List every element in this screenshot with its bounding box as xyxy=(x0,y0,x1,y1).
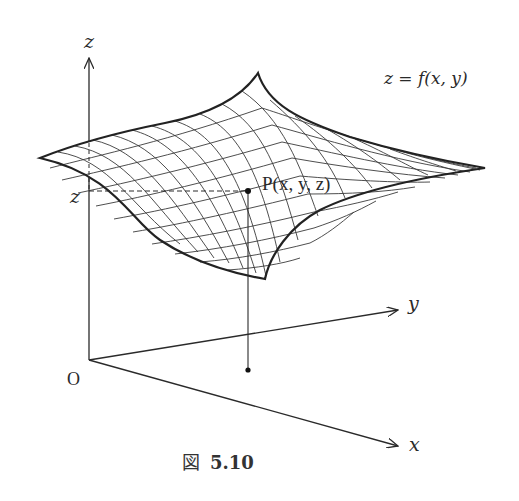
equation-label: z = f(x, y) xyxy=(383,68,468,88)
caption-number: 5.10 xyxy=(210,452,254,473)
z-axis-label: z xyxy=(83,30,95,52)
y-axis-label: y xyxy=(407,292,419,314)
point-base xyxy=(245,367,250,372)
figure-caption: 図 5.10 xyxy=(182,452,254,473)
point-p-label: P(x, y, z) xyxy=(262,173,330,195)
origin-label: O xyxy=(67,369,80,389)
surface-diagram: z z O y x P(x, y, z) z = f(x, y) 図 5.10 xyxy=(0,0,519,501)
caption-prefix: 図 xyxy=(182,452,200,473)
x-axis xyxy=(89,360,398,446)
y-axis xyxy=(89,310,398,360)
x-axis-label: x xyxy=(409,433,420,455)
point-p xyxy=(245,188,251,194)
z-value-label: z xyxy=(69,185,81,207)
